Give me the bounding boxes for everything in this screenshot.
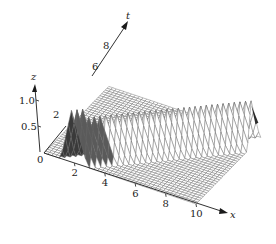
- x-axis-arrowhead: [219, 208, 228, 214]
- x-tick: [105, 173, 106, 176]
- t-tick-label: 8: [103, 40, 109, 51]
- x-tick: [135, 184, 136, 187]
- x-tick: [74, 163, 75, 166]
- t-axis-arrowhead: [121, 21, 128, 30]
- z-axis-arrowhead: [32, 84, 37, 92]
- x-tick-label: 8: [163, 198, 169, 209]
- x-tick: [166, 194, 167, 197]
- t-axis-label: t: [126, 10, 131, 21]
- surface-mesh: [44, 86, 261, 204]
- z-tick-label: 0.5: [21, 121, 37, 132]
- x-tick-label: 6: [132, 188, 138, 199]
- z-axis-label: z: [30, 71, 37, 82]
- z-tick-label: 1.0: [19, 95, 35, 106]
- origin-label: 0: [37, 154, 43, 165]
- t-tick-label: 2: [53, 109, 59, 120]
- t-tick-label: 6: [92, 61, 98, 72]
- x-tick: [196, 204, 197, 207]
- x-tick-label: 10: [190, 208, 203, 219]
- z-axis-line: [35, 88, 40, 152]
- x-tick-label: 2: [71, 167, 77, 178]
- x-tick-label: 4: [102, 177, 108, 188]
- surface-plot: x t z 0 246810 268 0.51.0: [0, 0, 276, 244]
- x-axis-label: x: [230, 209, 236, 220]
